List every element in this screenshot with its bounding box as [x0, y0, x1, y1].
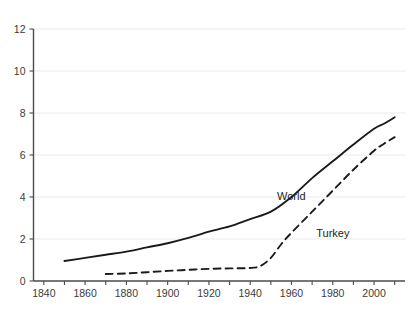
y-tick-label-12: 12 [14, 23, 26, 35]
x-tick-label-1980: 1980 [321, 287, 345, 299]
series-line-turkey [106, 137, 395, 274]
x-tick-label-1860: 1860 [73, 287, 97, 299]
y-tick-label-2: 2 [20, 233, 26, 245]
y-tick-label-4: 4 [20, 191, 26, 203]
series-label-world: World [277, 190, 306, 202]
y-tick-label-8: 8 [20, 107, 26, 119]
y-tick-label-6: 6 [20, 149, 26, 161]
chart-canvas: 024681012 184018601880190019201940196019… [0, 0, 418, 314]
x-tick-label-1940: 1940 [239, 287, 263, 299]
x-tick-label-2000: 2000 [362, 287, 386, 299]
x-tick-label-1840: 1840 [32, 287, 56, 299]
x-tick-label-1900: 1900 [156, 287, 180, 299]
x-tick-label-1960: 1960 [280, 287, 304, 299]
gridlines-group [34, 29, 406, 239]
line-chart: 024681012 184018601880190019201940196019… [0, 0, 418, 314]
y-tick-label-0: 0 [20, 275, 26, 287]
series-label-turkey: Turkey [316, 227, 350, 239]
series-group [64, 117, 394, 274]
x-tick-label-1880: 1880 [115, 287, 139, 299]
y-tick-label-10: 10 [14, 65, 26, 77]
x-tick-label-1920: 1920 [197, 287, 221, 299]
y-axis: 024681012 [14, 23, 34, 287]
x-axis: 184018601880190019201940196019802000 [32, 281, 405, 299]
